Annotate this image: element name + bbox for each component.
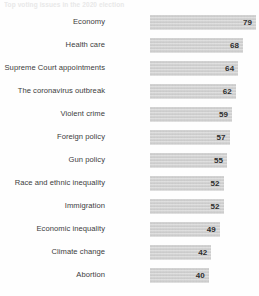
bar-row: Economic inequality49 — [0, 220, 259, 243]
bar-row: Supreme Court appointments64 — [0, 59, 259, 82]
bar-value-label: 42 — [198, 247, 207, 258]
bar-row: The coronavirus outbreak62 — [0, 82, 259, 105]
bar-row: Climate change42 — [0, 243, 259, 266]
bar-value-label: 52 — [210, 201, 219, 212]
bar-track: 49 — [150, 222, 256, 237]
bar-category-label: The coronavirus outbreak — [0, 86, 105, 96]
bar-category-label: Abortion — [0, 270, 105, 280]
bar-row: Economy79 — [0, 13, 259, 36]
bar-category-label: Economy — [0, 17, 105, 27]
bar-track: 52 — [150, 176, 256, 191]
bar: 59 — [150, 107, 232, 122]
bar-track: 79 — [150, 15, 256, 30]
bar-value-label: 59 — [219, 109, 228, 120]
bar: 68 — [150, 38, 243, 53]
bar-chart-figure: Top voting issues in the 2020 election E… — [0, 0, 259, 296]
bar-track: 55 — [150, 153, 256, 168]
bar-value-label: 40 — [196, 270, 205, 281]
bar-track: 62 — [150, 84, 256, 99]
bar-value-label: 62 — [223, 86, 232, 97]
bar-category-label: Supreme Court appointments — [0, 63, 105, 73]
bar: 62 — [150, 84, 236, 99]
bar: 49 — [150, 222, 220, 237]
bar-row: Violent crime59 — [0, 105, 259, 128]
bar: 40 — [150, 268, 209, 283]
bar-category-label: Gun policy — [0, 155, 105, 165]
bar: 57 — [150, 130, 230, 145]
bar-track: 59 — [150, 107, 256, 122]
bar-category-label: Immigration — [0, 201, 105, 211]
bar-category-label: Health care — [0, 40, 105, 50]
bar: 52 — [150, 176, 224, 191]
bar-value-label: 52 — [210, 178, 219, 189]
bar: 55 — [150, 153, 227, 168]
bar-row: Immigration52 — [0, 197, 259, 220]
bar-track: 64 — [150, 61, 256, 76]
bar-value-label: 64 — [225, 63, 234, 74]
bar-row: Foreign policy57 — [0, 128, 259, 151]
bar-track: 68 — [150, 38, 256, 53]
bar-track: 40 — [150, 268, 256, 283]
bar-row: Abortion40 — [0, 266, 259, 289]
bar: 64 — [150, 61, 238, 76]
bar-row: Race and ethnic inequality52 — [0, 174, 259, 197]
chart-title: Top voting issues in the 2020 election — [4, 0, 255, 9]
bar-row: Health care68 — [0, 36, 259, 59]
bar-value-label: 49 — [207, 224, 216, 235]
bar-category-label: Climate change — [0, 247, 105, 257]
bar-value-label: 79 — [243, 17, 252, 28]
bar-value-label: 68 — [230, 40, 239, 51]
bar-row: Gun policy55 — [0, 151, 259, 174]
bar-category-label: Economic inequality — [0, 224, 105, 234]
bar-track: 57 — [150, 130, 256, 145]
bar-rows-container: Economy79Health care68Supreme Court appo… — [0, 13, 259, 289]
bar: 52 — [150, 199, 224, 214]
bar-value-label: 57 — [216, 132, 225, 143]
bar-category-label: Violent crime — [0, 109, 105, 119]
bar: 42 — [150, 245, 211, 260]
bar-category-label: Foreign policy — [0, 132, 105, 142]
bar: 79 — [150, 15, 256, 30]
bar-track: 42 — [150, 245, 256, 260]
bar-category-label: Race and ethnic inequality — [0, 178, 105, 188]
bar-value-label: 55 — [214, 155, 223, 166]
bar-track: 52 — [150, 199, 256, 214]
